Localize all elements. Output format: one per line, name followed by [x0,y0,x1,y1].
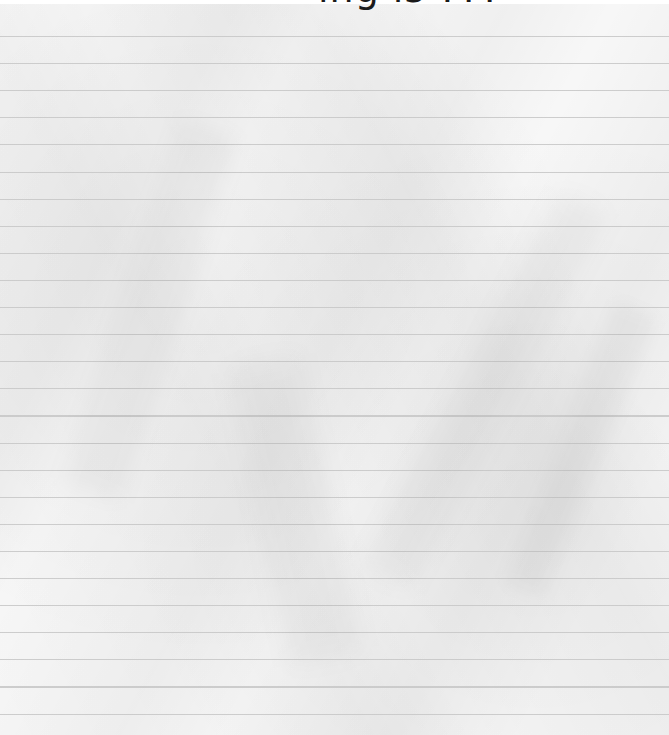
canvas: ing is ??? [0,0,669,735]
ruled-lines [0,10,669,735]
clipped-title: ing is ??? [0,0,669,12]
title-text: ing is ??? [318,0,502,8]
